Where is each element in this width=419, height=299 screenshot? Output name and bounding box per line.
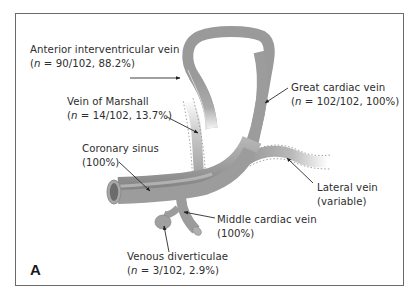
label-coronary-sinus: Coronary sinus (100%) xyxy=(82,142,159,170)
label-great-cardiac-vein: Great cardiac vein (n = 102/102, 100%) xyxy=(291,81,399,109)
venous-diverticulum xyxy=(155,208,178,229)
label-middle-cardiac-vein: Middle cardiac vein (100%) xyxy=(217,213,317,241)
middle-cardiac-vein xyxy=(181,198,203,237)
label-lateral-vein: Lateral vein (variable) xyxy=(317,181,378,209)
label-venous-diverticulae: Venous diverticulae (n = 3/102, 2.9%) xyxy=(127,250,228,278)
label-vein-of-marshall: Vein of Marshall (n = 14/102, 13.7%) xyxy=(67,95,172,123)
label-anterior-interventricular-vein: Anterior interventricular vein (n = 90/1… xyxy=(30,43,180,71)
vd-pointer-arrow xyxy=(164,226,169,252)
coronary-sinus-trunk xyxy=(107,52,262,204)
panel-label: A xyxy=(30,261,41,278)
